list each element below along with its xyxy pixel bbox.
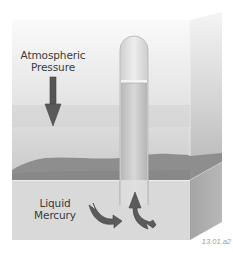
side-wall <box>190 12 222 162</box>
atmospheric-label-line1: Atmospheric <box>10 49 96 61</box>
mercury-label-line2: Mercury <box>24 209 86 221</box>
mercury-label-line1: Liquid <box>24 197 86 209</box>
glass-tube <box>120 36 148 205</box>
atmospheric-label-line2: Pressure <box>10 61 96 73</box>
liquid-mercury-label: Liquid Mercury <box>24 197 86 221</box>
barometer-diagram: Atmospheric Pressure Liquid Mercury 13.0… <box>0 0 233 254</box>
atmospheric-pressure-label: Atmospheric Pressure <box>10 49 96 73</box>
figure-id: 13.01.a2 <box>202 237 231 246</box>
